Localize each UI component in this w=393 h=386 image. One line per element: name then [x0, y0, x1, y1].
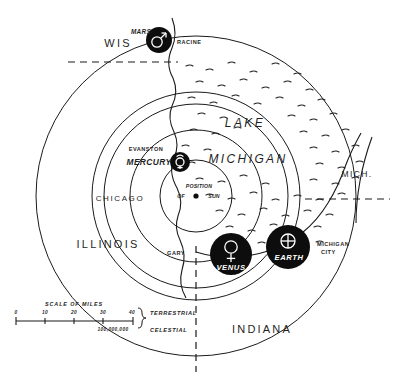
sun-label-of: OF — [177, 193, 185, 199]
lake-label-line1: LAKE — [225, 116, 265, 130]
city-label-chicago: CHICAGO — [96, 194, 145, 203]
michigan-inland-line — [356, 137, 372, 223]
earth-symbol-icon — [281, 234, 295, 248]
scale-tick-label-20: 20 — [70, 310, 77, 315]
scale-tick-label-10: 10 — [42, 310, 48, 315]
sun-dot-icon — [193, 193, 198, 198]
scale-bar: SCALE OF MILES 0 10 20 30 40 100,000,000… — [14, 301, 196, 333]
scale-tick-label-30: 30 — [100, 310, 106, 315]
mars-label: MARS — [131, 28, 151, 35]
scale-bar-title: SCALE OF MILES — [45, 301, 103, 307]
state-label-michigan: MICH. — [341, 169, 372, 179]
mercury-label: MERCURY — [127, 157, 173, 167]
state-borders — [68, 62, 390, 372]
state-label-illinois: ILLINOIS — [77, 238, 140, 250]
state-labels: WIS ILLINOIS INDIANA MICH. — [77, 37, 373, 335]
venus-label: VENUS — [216, 263, 245, 272]
scale-tick-label-0: 0 — [14, 310, 17, 315]
sun-label-sun: SUN — [208, 193, 220, 199]
sun-label-line1: POSITION — [186, 183, 212, 189]
city-label-michigan-city-line2: CITY — [321, 249, 336, 255]
city-label-racine: RACINE — [177, 39, 201, 45]
solar-system-map: WIS ILLINOIS INDIANA MICH. LAKE MICHIGAN… — [0, 0, 393, 386]
earth-label: EARTH — [274, 253, 303, 262]
city-label-gary: GARY — [167, 250, 185, 256]
sun-marker-group: POSITION OF SUN — [177, 183, 220, 199]
lake-label-line2: MICHIGAN — [208, 152, 287, 166]
planet-mars[interactable]: MARS — [131, 27, 172, 53]
city-label-michigan-city-line1: MICHIGAN — [317, 241, 349, 247]
city-label-evanston: EVANSTON — [129, 146, 164, 152]
lake-label: LAKE MICHIGAN — [208, 116, 287, 166]
state-label-indiana: INDIANA — [232, 323, 292, 335]
scale-celestial-value: 100,000,000 — [97, 327, 128, 332]
state-label-wisconsin: WIS — [104, 37, 131, 49]
scale-brace-icon — [138, 308, 146, 328]
scale-tick-label-40: 40 — [128, 310, 135, 315]
planet-venus[interactable]: VENUS — [210, 233, 252, 275]
planet-earth[interactable]: EARTH — [266, 225, 310, 269]
scale-row-terrestrial: TERRESTRIAL — [150, 310, 197, 316]
scale-row-celestial: CELESTIAL — [150, 327, 187, 333]
